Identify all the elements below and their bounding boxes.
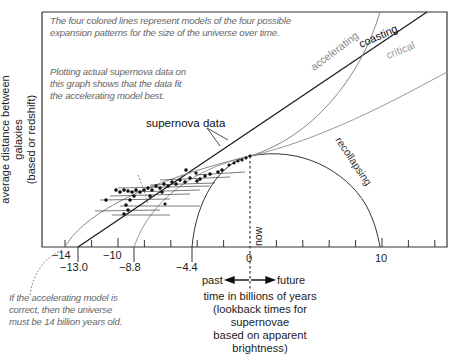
tick-label-minus-8-8: −8.8 (119, 261, 141, 273)
supernova-pointer-lines (207, 128, 228, 146)
critical-label: critical (384, 39, 416, 61)
tick-label-minus-13: −13.0 (60, 261, 88, 273)
tick-label-zero: 0 (246, 252, 252, 264)
y-axis-label-line-2: (based or redshift) (25, 60, 38, 220)
top-note: The four colored lines represent models … (50, 15, 330, 39)
top-note-line-1: The four colored lines represent models … (50, 15, 330, 27)
supernova-label: supernova data (146, 117, 226, 129)
x-axis-label-line-1: time in billions of years (190, 290, 330, 303)
tick-label-minus-10: −10 (103, 249, 122, 261)
middle-note-line-3: the accelerating model best. (50, 90, 190, 102)
bottom-note-line-3: must be 14 billion years old. (9, 316, 129, 328)
recollapsing-label: recollapsing (333, 134, 374, 187)
top-note-line-2: expansion patterns for the size of the u… (50, 27, 330, 39)
middle-note-line-2: this graph shows that the data fit (50, 78, 190, 90)
past-label: past (202, 274, 223, 286)
bottom-note: If the accelerating model is correct, th… (9, 292, 129, 328)
tick-label-minus-14: −14 (52, 249, 71, 261)
bottom-note-line-2: correct, then the universe (9, 304, 129, 316)
x-axis-label: time in billions of years (lookback time… (190, 290, 330, 355)
coasting-line (78, 12, 427, 247)
middle-note-line-1: Plotting actual supernova data on (50, 66, 190, 78)
x-axis-label-line-3: based on apparent brightness) (190, 329, 330, 355)
middle-note: Plotting actual supernova data on this g… (50, 66, 190, 102)
x-axis-label-line-2: (lookback times for supernovae (190, 303, 330, 329)
tick-label-minus-4-4: −4.4 (176, 261, 198, 273)
supernova-data-points (95, 155, 251, 216)
bottom-note-line-1: If the accelerating model is (9, 292, 129, 304)
future-label: future (277, 274, 305, 286)
y-axis-label-line-1: average distance between galaxies (0, 60, 25, 220)
now-label: now (252, 226, 264, 246)
y-axis-label: average distance between galaxies (based… (0, 60, 38, 220)
tick-label-ten: 10 (375, 252, 387, 264)
